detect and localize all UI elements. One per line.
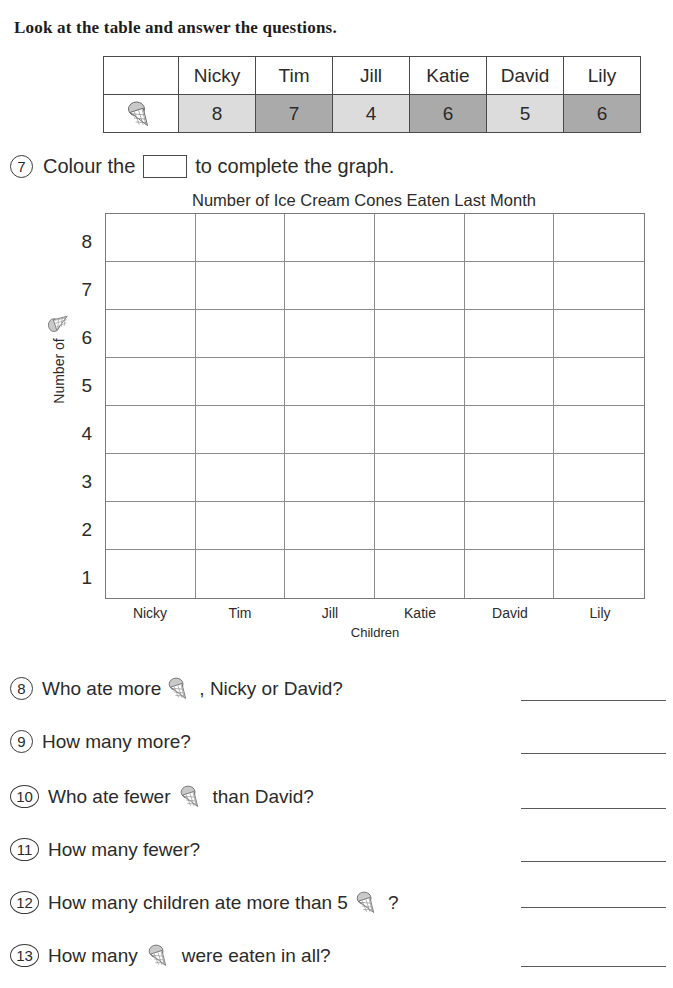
table-row-names: Nicky Tim Jill Katie David Lily <box>104 57 641 95</box>
question-9: 9 How many more? <box>10 730 191 753</box>
question-number-10: 10 <box>10 785 39 808</box>
grid-cell[interactable] <box>196 550 286 598</box>
grid-cell[interactable] <box>465 550 555 598</box>
table-header-name-2: Jill <box>333 57 410 95</box>
grid-cell[interactable] <box>375 262 465 310</box>
grid-cell[interactable] <box>465 310 555 358</box>
grid-cell[interactable] <box>106 358 196 406</box>
answer-line-8[interactable] <box>521 700 666 701</box>
answer-line-11[interactable] <box>521 861 666 862</box>
y-tick-8: 8 <box>66 231 92 253</box>
x-tick-jill: Jill <box>285 605 375 621</box>
ice-cream-cone-icon <box>147 943 173 968</box>
grid-cell[interactable] <box>465 214 555 262</box>
answer-line-13[interactable] <box>521 966 666 967</box>
grid-cell[interactable] <box>196 262 286 310</box>
question-number-9: 9 <box>10 730 33 753</box>
ice-cream-cone-icon <box>355 890 381 915</box>
grid-cell[interactable] <box>465 406 555 454</box>
x-tick-david: David <box>465 605 555 621</box>
grid-cell[interactable] <box>375 358 465 406</box>
grid-cell[interactable] <box>375 502 465 550</box>
y-axis-label: Number of <box>47 297 70 417</box>
grid-cell[interactable] <box>106 406 196 454</box>
grid-cell[interactable] <box>465 262 555 310</box>
grid-cell[interactable] <box>285 406 375 454</box>
answer-line-10[interactable] <box>521 808 666 809</box>
grid-cell[interactable] <box>196 406 286 454</box>
table-cell-count-3: 6 <box>410 95 487 133</box>
grid-cell[interactable] <box>285 214 375 262</box>
table-header-name-0: Nicky <box>179 57 256 95</box>
table-cell-count-1: 7 <box>256 95 333 133</box>
grid-cell[interactable] <box>106 550 196 598</box>
grid-cell[interactable] <box>554 262 644 310</box>
grid-cell[interactable] <box>554 454 644 502</box>
question-12-text-after: ? <box>388 892 399 914</box>
question-8-text-after: , Nicky or David? <box>199 678 343 700</box>
y-tick-5: 5 <box>66 375 92 397</box>
question-9-text: How many more? <box>42 731 191 753</box>
x-tick-katie: Katie <box>375 605 465 621</box>
grid-cell[interactable] <box>106 214 196 262</box>
grid-cell[interactable] <box>285 502 375 550</box>
colour-box-input[interactable] <box>143 155 187 178</box>
grid-cell[interactable] <box>465 454 555 502</box>
grid-cell[interactable] <box>554 502 644 550</box>
grid-cell[interactable] <box>106 310 196 358</box>
question-8: 8 Who ate more , Nicky or David? <box>10 676 343 701</box>
table-cell-count-2: 4 <box>333 95 410 133</box>
x-axis-label: Children <box>105 625 645 640</box>
question-number-8: 8 <box>10 677 33 700</box>
question-13: 13 How many were eaten in all? <box>10 943 331 968</box>
table-corner-cell <box>104 57 179 95</box>
grid-cell[interactable] <box>285 550 375 598</box>
table-cell-count-0: 8 <box>179 95 256 133</box>
grid-cell[interactable] <box>285 262 375 310</box>
y-tick-3: 3 <box>66 471 92 493</box>
answer-line-12[interactable] <box>521 907 666 908</box>
grid-cell[interactable] <box>375 406 465 454</box>
grid-cell[interactable] <box>196 454 286 502</box>
question-7: 7 Colour the to complete the graph. <box>10 155 394 178</box>
table-row-counts: 8 7 4 6 5 6 <box>104 95 641 133</box>
question-7-text-before: Colour the <box>43 155 135 178</box>
question-11-text: How many fewer? <box>48 839 200 861</box>
table-cell-count-5: 6 <box>564 95 641 133</box>
grid-cell[interactable] <box>375 214 465 262</box>
x-tick-nicky: Nicky <box>105 605 195 621</box>
x-tick-lily: Lily <box>555 605 645 621</box>
page-title: Look at the table and answer the questio… <box>14 18 337 38</box>
grid-cell[interactable] <box>196 310 286 358</box>
grid-cell[interactable] <box>285 310 375 358</box>
grid-cell[interactable] <box>375 550 465 598</box>
table-header-name-3: Katie <box>410 57 487 95</box>
grid-cell[interactable] <box>106 454 196 502</box>
graph-title: Number of Ice Cream Cones Eaten Last Mon… <box>0 191 673 210</box>
answer-line-9[interactable] <box>521 753 666 754</box>
grid-cell[interactable] <box>465 502 555 550</box>
grid-cell[interactable] <box>375 310 465 358</box>
grid-cell[interactable] <box>554 358 644 406</box>
grid-cell[interactable] <box>196 214 286 262</box>
grid-cell[interactable] <box>285 454 375 502</box>
grid-cell[interactable] <box>196 502 286 550</box>
question-10-text-before: Who ate fewer <box>48 786 171 808</box>
grid-cell[interactable] <box>106 262 196 310</box>
grid-cell[interactable] <box>196 358 286 406</box>
grid-cell[interactable] <box>554 214 644 262</box>
question-10: 10 Who ate fewer than David? <box>10 784 314 809</box>
grid-cell[interactable] <box>554 310 644 358</box>
grid-cell[interactable] <box>375 454 465 502</box>
grid-cell[interactable] <box>554 550 644 598</box>
question-12-text-before: How many children ate more than 5 <box>48 892 348 914</box>
question-number-11: 11 <box>10 838 39 861</box>
grid-cell[interactable] <box>465 358 555 406</box>
grid-cell[interactable] <box>285 358 375 406</box>
graph-grid[interactable] <box>105 213 645 599</box>
question-number-12: 12 <box>10 891 39 914</box>
grid-cell[interactable] <box>106 502 196 550</box>
y-tick-2: 2 <box>66 519 92 541</box>
grid-cell[interactable] <box>554 406 644 454</box>
table-cell-count-4: 5 <box>487 95 564 133</box>
